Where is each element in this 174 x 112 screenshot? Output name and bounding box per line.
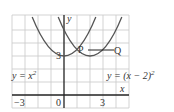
tick-x-3: 3 — [100, 97, 105, 108]
tick-x-neg3: −3 — [14, 97, 25, 108]
curve2-label: y = (x − 2)2 — [106, 69, 155, 82]
tick-y-3: 3 — [56, 50, 61, 61]
x-axis-label: x — [119, 83, 125, 94]
grid — [12, 15, 129, 108]
point-q-label: Q — [114, 45, 122, 56]
parabola-diagram: y x 3 −3 0 3 P Q y = x2 y = (x − 2)2 — [0, 0, 174, 112]
curve1-label: y = x2 — [11, 69, 37, 81]
tick-x-0: 0 — [56, 97, 61, 108]
point-p-label: P — [78, 44, 84, 55]
y-axis-label: y — [66, 13, 72, 24]
